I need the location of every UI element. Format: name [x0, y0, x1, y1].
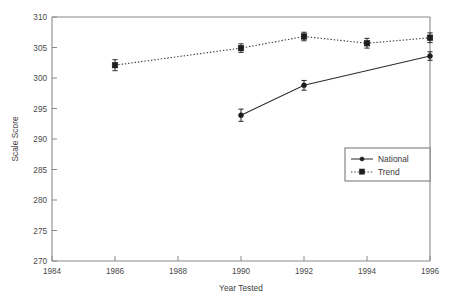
series-line-national	[241, 56, 430, 115]
y-tick-label-290: 290	[33, 135, 47, 144]
plot-frame	[52, 17, 430, 261]
data-point-circle	[239, 113, 244, 118]
chart-legend: National Trend	[345, 148, 430, 181]
y-tick-label-280: 280	[33, 196, 47, 205]
y-tick-label-310: 310	[33, 13, 47, 22]
x-axis-tick-labels: 1984 1986 1988 1990 1992 1994 1996	[43, 267, 440, 276]
data-point-square	[301, 34, 307, 40]
x-tick-label-1992: 1992	[295, 267, 314, 276]
series-trend	[112, 32, 433, 70]
y-axis-tick-labels: 310 305 300 295 290 285 280 275 270	[33, 13, 47, 266]
x-axis-title: Year Tested	[219, 283, 263, 293]
series-layer	[112, 32, 433, 121]
data-point-square	[238, 45, 244, 51]
data-point-square	[112, 62, 118, 68]
x-tick-label-1996: 1996	[421, 267, 440, 276]
series-national	[238, 52, 432, 122]
legend-marker-circle-icon	[360, 157, 364, 161]
data-point-circle	[428, 54, 433, 59]
legend-label-national: National	[378, 154, 409, 164]
x-tick-label-1994: 1994	[358, 267, 377, 276]
y-axis-ticks	[52, 17, 57, 261]
legend-label-trend: Trend	[378, 167, 400, 177]
data-point-square	[427, 35, 433, 41]
chart-figure: 310 305 300 295 290 285 280 275 270 1984…	[0, 0, 452, 303]
y-tick-label-285: 285	[33, 166, 47, 175]
x-tick-label-1984: 1984	[43, 267, 62, 276]
x-tick-label-1986: 1986	[106, 267, 125, 276]
y-axis-title: Scale Score	[10, 116, 20, 161]
data-point-circle	[302, 83, 307, 88]
x-tick-label-1990: 1990	[232, 267, 251, 276]
y-tick-label-270: 270	[33, 257, 47, 266]
y-tick-label-305: 305	[33, 44, 47, 53]
y-tick-label-295: 295	[33, 105, 47, 114]
y-tick-label-275: 275	[33, 227, 47, 236]
data-point-square	[364, 40, 370, 46]
series-line-trend	[115, 37, 430, 66]
legend-marker-square-icon	[359, 169, 364, 174]
line-chart: 310 305 300 295 290 285 280 275 270 1984…	[0, 0, 452, 303]
x-tick-label-1988: 1988	[169, 267, 188, 276]
y-tick-label-300: 300	[33, 74, 47, 83]
x-axis-ticks	[52, 256, 430, 261]
